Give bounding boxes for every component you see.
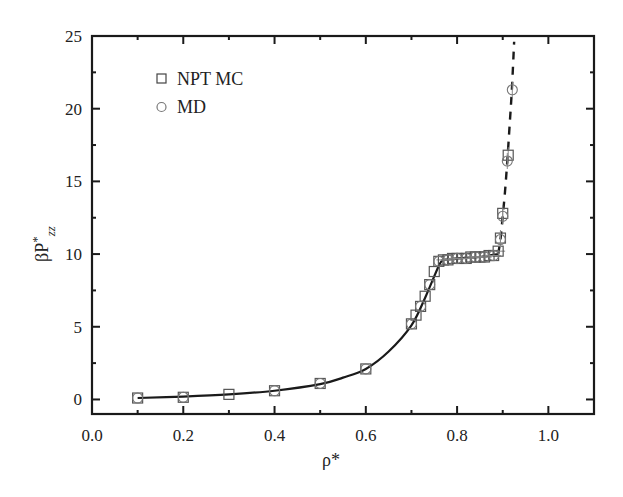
plot-frame bbox=[92, 36, 594, 414]
x-axis-label: ρ* bbox=[322, 450, 340, 470]
y-axis-label: βP*zz bbox=[29, 226, 58, 262]
y-tick-label: 20 bbox=[65, 100, 82, 119]
solid-fit-line bbox=[138, 260, 444, 398]
axis-ticks bbox=[92, 36, 594, 414]
y-tick-label: 15 bbox=[65, 172, 82, 191]
y-tick-label: 0 bbox=[74, 390, 83, 409]
data-markers bbox=[133, 82, 518, 403]
chart-canvas: 0.00.20.40.60.81.00510152025 NPT MC MD ρ… bbox=[0, 0, 623, 497]
legend-square-icon bbox=[157, 74, 166, 83]
dashed-fit-line bbox=[498, 42, 514, 254]
y-tick-label: 5 bbox=[74, 318, 83, 337]
x-tick-label: 0.8 bbox=[446, 426, 467, 445]
legend-circle-icon bbox=[157, 103, 166, 112]
x-tick-label: 0.4 bbox=[264, 426, 286, 445]
x-tick-label: 1.0 bbox=[538, 426, 559, 445]
x-tick-label: 0.2 bbox=[173, 426, 194, 445]
axis-tick-labels: 0.00.20.40.60.81.00510152025 bbox=[65, 27, 559, 445]
legend: NPT MC MD bbox=[157, 69, 243, 117]
legend-label-npt-mc: NPT MC bbox=[177, 69, 243, 89]
x-tick-label: 0.6 bbox=[355, 426, 376, 445]
x-tick-label: 0.0 bbox=[81, 426, 102, 445]
y-tick-label: 25 bbox=[65, 27, 82, 46]
svg-text:βP*zz: βP*zz bbox=[29, 226, 58, 262]
y-axis-label-sub: zz bbox=[43, 226, 58, 237]
legend-label-md: MD bbox=[177, 97, 206, 117]
y-axis-label-sup: * bbox=[29, 236, 44, 243]
fit-curves bbox=[138, 42, 515, 398]
y-axis-label-main: βP bbox=[32, 243, 52, 262]
y-tick-label: 10 bbox=[65, 245, 82, 264]
